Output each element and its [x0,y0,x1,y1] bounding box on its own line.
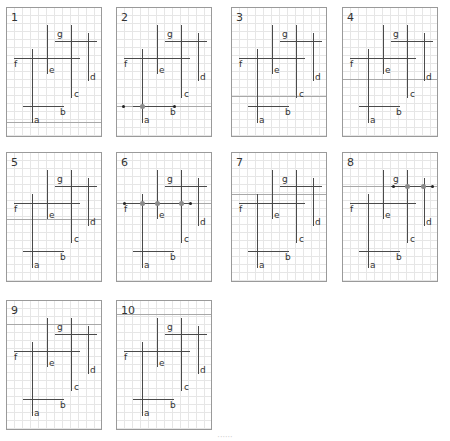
segment-d [424,33,425,81]
intersection-marker [140,201,145,206]
segment-g [55,186,97,187]
segment-label-d: d [90,366,96,375]
segment-d [198,178,199,226]
segment-label-c: c [410,235,415,244]
segment-a [368,49,369,123]
endpoint-marker [173,105,176,108]
segment-a [32,342,33,416]
segment-label-e: e [159,359,165,368]
segment-label-c: c [74,90,79,99]
endpoint-marker [189,202,192,205]
segment-a [368,194,369,268]
segment-label-f: f [124,205,127,214]
panel-6: 6gfbecda [116,152,212,282]
segment-a [142,49,143,123]
segment-label-g: g [57,323,63,332]
segment-b [359,106,400,107]
segment-label-c: c [184,235,189,244]
segment-label-d: d [315,73,321,82]
segment-g [165,334,207,335]
segment-b [23,106,64,107]
panel-2: 2gfbecda [116,7,212,137]
segment-label-g: g [282,30,288,39]
segment-label-c: c [74,235,79,244]
panel-number: 2 [121,11,128,24]
panel-number: 8 [347,156,354,169]
segment-label-c: c [299,235,304,244]
segment-label-f: f [124,353,127,362]
segment-g [280,186,322,187]
segment-g [165,186,207,187]
panel-number: 6 [121,156,128,169]
panel-number: 3 [236,11,243,24]
segment-label-b: b [285,253,291,262]
panel-number: 7 [236,156,243,169]
panel-8: 8gfbecda [342,152,438,282]
endpoint-marker [392,185,395,188]
segment-label-f: f [350,60,353,69]
segment-label-d: d [200,366,206,375]
segment-d [313,33,314,81]
segment-c [181,170,182,243]
panel-number: 5 [11,156,18,169]
segment-b [248,106,289,107]
segment-d [198,326,199,374]
segment-e [47,170,48,219]
segment-label-a: a [34,409,40,418]
segment-label-d: d [200,73,206,82]
segment-d [88,326,89,374]
segment-label-g: g [167,175,173,184]
segment-label-d: d [90,73,96,82]
segment-label-g: g [167,30,173,39]
segment-c [407,170,408,243]
segment-b [248,251,289,252]
segment-label-b: b [60,108,66,117]
segment-label-g: g [57,175,63,184]
segment-label-d: d [200,218,206,227]
panel-4: 4gfbecda [342,7,438,137]
endpoint-marker [123,202,126,205]
segment-label-f: f [14,60,17,69]
segment-label-a: a [144,409,150,418]
panel-5: 5gfbecda [6,152,102,282]
segment-label-e: e [385,66,391,75]
segment-label-d: d [90,218,96,227]
segment-label-g: g [393,30,399,39]
segment-label-c: c [184,90,189,99]
segment-g [391,41,433,42]
sweep-line [343,79,437,80]
segment-label-f: f [14,205,17,214]
segment-label-c: c [299,90,304,99]
segment-a [142,342,143,416]
panel-7: 7gfbecda [231,152,327,282]
segment-b [133,399,174,400]
segment-label-b: b [60,401,66,410]
segment-label-a: a [370,116,376,125]
segment-g [280,41,322,42]
segment-label-b: b [170,108,176,117]
segment-c [71,25,72,98]
segment-e [383,170,384,219]
segment-label-f: f [239,205,242,214]
segment-label-d: d [426,218,432,227]
segment-c [181,318,182,391]
segment-label-g: g [167,323,173,332]
segment-b [23,251,64,252]
segment-label-f: f [239,60,242,69]
sweep-line [232,194,326,195]
intersection-marker [155,201,160,206]
segment-label-b: b [396,253,402,262]
segment-a [32,49,33,123]
segment-label-e: e [159,211,165,220]
segment-label-f: f [350,205,353,214]
segment-d [198,33,199,81]
segment-label-a: a [34,261,40,270]
endpoint-marker [122,105,125,108]
segment-g [165,41,207,42]
segment-label-b: b [396,108,402,117]
sweep-line [7,122,101,123]
panel-number: 1 [11,11,18,24]
segment-c [71,318,72,391]
endpoint-marker [431,185,434,188]
segment-e [383,25,384,74]
